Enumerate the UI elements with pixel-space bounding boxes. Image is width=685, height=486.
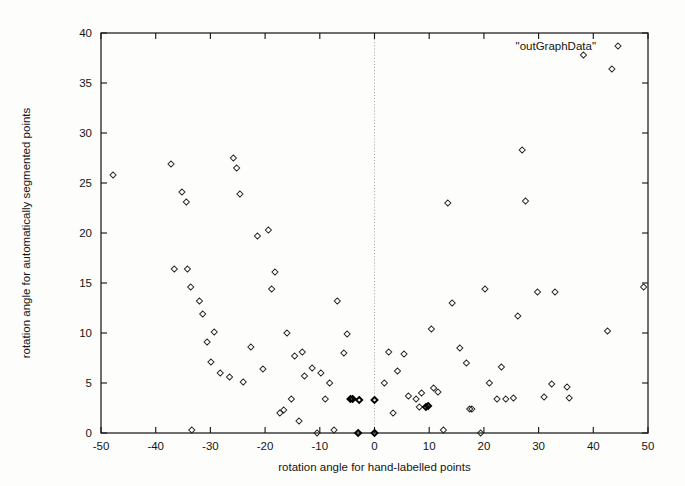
data-point-marker [184, 266, 190, 272]
x-tick-label: 40 [587, 440, 600, 452]
data-point-marker [401, 351, 407, 357]
x-tick-label: 0 [371, 440, 377, 452]
data-point-marker [564, 384, 570, 390]
data-point-marker [463, 360, 469, 366]
data-point-marker [211, 329, 217, 335]
data-point-marker [217, 370, 223, 376]
data-point-marker [580, 52, 586, 58]
data-point-marker [292, 353, 298, 359]
data-point-marker [405, 393, 411, 399]
data-point-marker [457, 345, 463, 351]
data-point-marker [486, 380, 492, 386]
x-tick-label: -20 [257, 440, 274, 452]
data-point-marker [204, 339, 210, 345]
data-point-marker [179, 189, 185, 195]
data-point-marker [535, 289, 541, 295]
data-point-marker [394, 368, 400, 374]
x-tick-label: 10 [423, 440, 436, 452]
y-tick-label: 5 [86, 377, 92, 389]
data-point-marker [413, 396, 419, 402]
data-point-marker [498, 364, 504, 370]
data-point-marker [467, 406, 473, 412]
data-point-marker [331, 427, 337, 433]
data-point-marker [299, 349, 305, 355]
data-point-marker [318, 370, 324, 376]
data-point-marker [168, 161, 174, 167]
data-point-marker [341, 350, 347, 356]
y-axis-title: rotation angle for automatically segment… [20, 107, 32, 358]
data-point-marker [248, 344, 254, 350]
data-point-marker [110, 172, 116, 178]
x-tick-label: 50 [642, 440, 655, 452]
y-tick-label: 10 [79, 327, 92, 339]
data-point-marker [284, 330, 290, 336]
data-point-marker [196, 298, 202, 304]
data-point-marker [381, 380, 387, 386]
data-point-marker [609, 66, 615, 72]
data-point-marker [482, 286, 488, 292]
data-point-marker [372, 397, 378, 403]
data-point-marker [189, 427, 195, 433]
data-point-marker [641, 284, 647, 290]
legend-label: "outGraphData" [516, 40, 596, 52]
y-tick-label: 20 [79, 227, 92, 239]
data-point-marker [510, 395, 516, 401]
data-point-marker [431, 385, 437, 391]
y-tick-label: 30 [79, 127, 92, 139]
data-point-marker [237, 191, 243, 197]
y-tick-label: 40 [79, 27, 92, 39]
x-tick-label: 30 [532, 440, 545, 452]
data-point-marker [552, 289, 558, 295]
data-point-marker [419, 390, 425, 396]
chart-figure: -50-40-30-20-100102030405005101520253035… [0, 0, 685, 486]
scatter-plot: -50-40-30-20-100102030405005101520253035… [0, 0, 685, 486]
data-point-marker [494, 396, 500, 402]
data-point-marker [296, 418, 302, 424]
data-point-marker [566, 395, 572, 401]
y-tick-label: 0 [86, 427, 92, 439]
data-point-marker [334, 298, 340, 304]
data-point-marker [440, 427, 446, 433]
data-point-marker [386, 349, 392, 355]
data-point-marker [254, 233, 260, 239]
data-point-marker [327, 380, 333, 386]
x-tick-label: -40 [147, 440, 164, 452]
data-point-marker [356, 397, 362, 403]
data-point-marker [240, 379, 246, 385]
y-tick-label: 25 [79, 177, 92, 189]
data-point-marker [208, 359, 214, 365]
data-point-marker [183, 199, 189, 205]
data-point-marker [445, 200, 451, 206]
data-point-marker [230, 155, 236, 161]
data-point-marker [519, 147, 525, 153]
data-point-marker [309, 365, 315, 371]
x-tick-label: -30 [202, 440, 219, 452]
data-point-marker [272, 269, 278, 275]
data-point-marker [428, 326, 434, 332]
data-point-marker [200, 311, 206, 317]
data-point-marker [469, 406, 475, 412]
data-point-marker [188, 284, 194, 290]
y-tick-label: 35 [79, 77, 92, 89]
data-point-marker [227, 374, 233, 380]
data-point-marker [301, 373, 307, 379]
data-point-marker [515, 313, 521, 319]
plot-frame [101, 33, 648, 433]
data-point-marker [288, 396, 294, 402]
data-point-marker [390, 410, 396, 416]
data-point-marker [260, 366, 266, 372]
data-point-marker [265, 227, 271, 233]
data-point-marker [449, 300, 455, 306]
data-point-marker [522, 198, 528, 204]
data-point-marker [322, 396, 328, 402]
data-point-marker [344, 331, 350, 337]
x-tick-label: -50 [93, 440, 110, 452]
data-point-marker [416, 404, 422, 410]
data-point-marker [549, 381, 555, 387]
x-axis-title: rotation angle for hand-labelled points [278, 461, 471, 473]
data-point-marker [234, 165, 240, 171]
data-point-marker [605, 328, 611, 334]
data-point-marker [503, 396, 509, 402]
data-point-marker [541, 394, 547, 400]
x-tick-label: 20 [478, 440, 491, 452]
